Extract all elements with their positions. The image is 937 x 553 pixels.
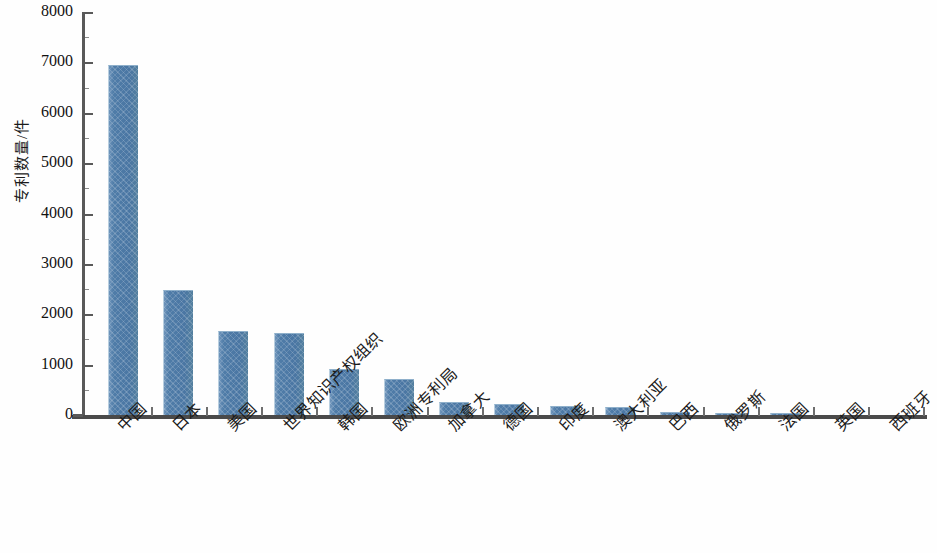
- y-tick-minor: [85, 188, 89, 189]
- y-tick-mark: [85, 314, 93, 316]
- y-tick-label: 1000: [41, 354, 73, 374]
- y-tick-mark: [85, 365, 93, 367]
- y-tick-minor: [85, 339, 89, 340]
- y-tick-mark: [85, 12, 93, 14]
- y-tick-mark: [85, 62, 93, 64]
- y-tick-mark: [85, 264, 93, 266]
- y-tick-minor: [85, 37, 89, 38]
- y-tick-label: 6000: [41, 102, 73, 122]
- y-tick-label: 8000: [41, 1, 73, 21]
- y-tick-minor: [85, 138, 89, 139]
- y-tick-label: 2000: [41, 303, 73, 323]
- y-tick-minor: [85, 289, 89, 290]
- y-tick-minor: [85, 88, 89, 89]
- origin-tick: [73, 414, 83, 417]
- y-tick-label: 7000: [41, 51, 73, 71]
- y-tick-minor: [85, 390, 89, 391]
- y-axis-title: 专利数量/件: [10, 81, 31, 241]
- y-tick-minor: [85, 239, 89, 240]
- x-axis-labels: 中国日本美国世界知识产权组织韩国欧洲专利局加拿大德国印度澳大利亚巴西俄罗斯法国英…: [82, 419, 937, 553]
- y-tick-mark: [85, 163, 93, 165]
- bar: [108, 65, 138, 415]
- patent-count-bar-chart: 专利数量/件 010002000300040005000600070008000…: [0, 0, 937, 553]
- plot-area: 010002000300040005000600070008000: [82, 12, 927, 415]
- y-tick-label: 0: [65, 404, 73, 424]
- x-tick-mark: [813, 407, 815, 416]
- x-tick-mark: [537, 407, 539, 416]
- x-tick-mark: [261, 407, 263, 416]
- y-tick-mark: [85, 113, 93, 115]
- y-tick-label: 5000: [41, 152, 73, 172]
- y-tick-mark: [85, 214, 93, 216]
- y-tick-label: 3000: [41, 253, 73, 273]
- y-tick-label: 4000: [41, 203, 73, 223]
